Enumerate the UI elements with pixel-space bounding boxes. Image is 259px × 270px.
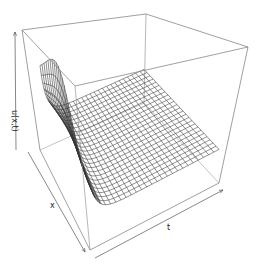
z-axis-label: u(x,t) (10, 110, 19, 132)
surface-mesh (40, 59, 219, 204)
surface-plot-canvas: u(x,t) x t (0, 0, 259, 270)
axis-arrows (13, 32, 223, 258)
t-axis-label: t (167, 223, 170, 232)
x-axis-label: x (50, 201, 55, 210)
surface-plot: u(x,t) x t (0, 0, 259, 270)
